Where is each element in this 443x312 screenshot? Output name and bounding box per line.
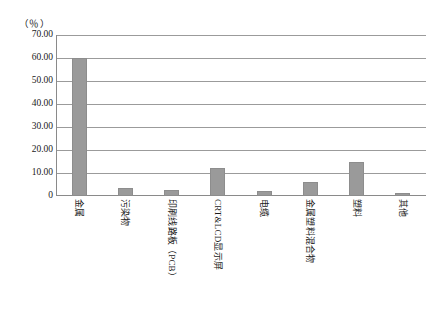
gridline bbox=[57, 35, 426, 36]
gridline bbox=[57, 127, 426, 128]
gridline bbox=[57, 104, 426, 105]
gridline bbox=[57, 150, 426, 151]
x-axis-tick-label: 电缆 bbox=[259, 199, 268, 309]
y-axis-tick-label: 50.00 bbox=[7, 76, 53, 86]
gridline bbox=[57, 81, 426, 82]
y-axis-tick-label: 20.00 bbox=[7, 145, 53, 155]
x-axis-tick-label: 金属塑料混合物 bbox=[305, 199, 314, 309]
y-axis-unit-label: （％） bbox=[19, 16, 50, 30]
x-axis-tick-label: 印刷线路板（PCB） bbox=[167, 199, 176, 309]
y-axis-tick-label: 70.00 bbox=[7, 30, 53, 40]
x-axis-tick-label: CRT&LCD显示屏 bbox=[213, 199, 222, 309]
x-axis-tick-label: 塑料 bbox=[352, 199, 361, 309]
y-axis-tick-labels: 70.0060.0050.0040.0030.0020.0010.000 bbox=[3, 35, 53, 196]
gridline bbox=[57, 58, 426, 59]
x-axis-tick-label: 污染物 bbox=[120, 199, 129, 309]
y-axis-tick-label: 40.00 bbox=[7, 99, 53, 109]
x-axis-tick-label: 金属 bbox=[74, 199, 83, 309]
y-axis-tick-label: 10.00 bbox=[7, 168, 53, 178]
bar-chart: （％） 70.0060.0050.0040.0030.0020.0010.000… bbox=[0, 0, 443, 312]
y-axis-tick-label: 0 bbox=[7, 191, 53, 201]
x-axis-tick-labels: 金属污染物印刷线路板（PCB）CRT&LCD显示屏电缆金属塑料混合物塑料其他 bbox=[56, 199, 426, 309]
y-axis-tick-label: 30.00 bbox=[7, 122, 53, 132]
y-axis-tick-label: 60.00 bbox=[7, 53, 53, 63]
gridline bbox=[57, 173, 426, 174]
x-axis-tick-label: 其他 bbox=[398, 199, 407, 309]
plot-area bbox=[56, 35, 426, 196]
